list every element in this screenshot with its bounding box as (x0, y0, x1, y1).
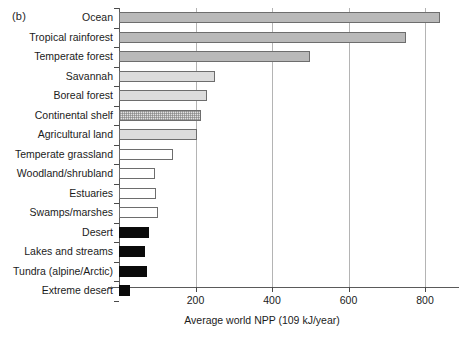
y-tick-mark (114, 262, 119, 263)
bar-temperate-forest (119, 51, 310, 62)
x-tick-mark-600 (349, 287, 350, 292)
bar-extreme-desert (119, 285, 130, 296)
category-label-desert: Desert (0, 227, 113, 238)
npp-bar-chart-figure: (b) OceanTropical rainforestTemperate fo… (0, 0, 474, 337)
bar-row (119, 203, 467, 223)
y-tick-mark (114, 67, 119, 68)
y-tick-mark (114, 47, 119, 48)
bar-row (119, 67, 467, 87)
bar-ocean (119, 12, 440, 23)
bar-row (119, 184, 467, 204)
category-label-temperate-forest: Temperate forest (0, 51, 113, 62)
x-tick-label-400: 400 (263, 294, 281, 306)
y-tick-mark (114, 281, 119, 282)
x-tick-mark-200 (196, 287, 197, 292)
y-tick-mark (114, 164, 119, 165)
bar-row (119, 47, 467, 67)
y-tick-mark (114, 184, 119, 185)
y-tick-mark (114, 203, 119, 204)
bar-row (119, 223, 467, 243)
bar-desert (119, 227, 149, 238)
x-tick-label-200: 200 (187, 294, 205, 306)
bar-row (119, 28, 467, 48)
bar-estuaries (119, 188, 156, 199)
y-tick-mark (114, 242, 119, 243)
category-label-woodland-shrubland: Woodland/shrubland (0, 168, 113, 179)
y-tick-mark (114, 125, 119, 126)
category-label-agricultural-land: Agricultural land (0, 129, 113, 140)
y-tick-mark (114, 86, 119, 87)
bar-temperate-grassland (119, 149, 173, 160)
category-label-swamps-marshes: Swamps/marshes (0, 207, 113, 218)
category-label-ocean: Ocean (0, 12, 113, 23)
bar-swamps-marshes (119, 207, 158, 218)
bar-row (119, 145, 467, 165)
bar-woodland-shrubland (119, 168, 155, 179)
bar-row (119, 8, 467, 28)
x-axis-title: Average world NPP (109 kJ/year) (0, 314, 474, 326)
y-tick-mark (114, 106, 119, 107)
x-tick-label-800: 800 (416, 294, 434, 306)
bar-tundra-alpine-arctic (119, 266, 147, 277)
bar-row (119, 125, 467, 145)
plot-area (119, 8, 467, 287)
bar-agricultural-land (119, 129, 197, 140)
bar-tropical-rainforest (119, 32, 406, 43)
bar-boreal-forest (119, 90, 207, 101)
category-label-estuaries: Estuaries (0, 188, 113, 199)
y-tick-mark (114, 223, 119, 224)
category-label-tundra-alpine-arctic: Tundra (alpine/Arctic) (0, 266, 113, 277)
bar-row (119, 242, 467, 262)
x-tick-label-600: 600 (340, 294, 358, 306)
category-label-lakes-and-streams: Lakes and streams (0, 246, 113, 257)
bar-savannah (119, 71, 215, 82)
category-axis-labels: OceanTropical rainforestTemperate forest… (0, 8, 113, 287)
bar-continental-shelf (119, 110, 201, 121)
x-axis-title-text: Average world NPP (109 kJ/year) (134, 314, 339, 326)
y-tick-mark (114, 8, 119, 9)
y-tick-mark (114, 301, 119, 302)
category-label-continental-shelf: Continental shelf (0, 110, 113, 121)
x-tick-mark-400 (272, 287, 273, 292)
category-label-tropical-rainforest: Tropical rainforest (0, 32, 113, 43)
category-label-boreal-forest: Boreal forest (0, 90, 113, 101)
y-tick-mark (114, 145, 119, 146)
bar-row (119, 164, 467, 184)
bar-row (119, 106, 467, 126)
bar-row (119, 86, 467, 106)
category-label-savannah: Savannah (0, 71, 113, 82)
bar-rows (119, 8, 467, 287)
category-label-extreme-desert: Extreme desert (0, 285, 113, 296)
y-tick-mark (114, 28, 119, 29)
category-label-temperate-grassland: Temperate grassland (0, 149, 113, 160)
bar-lakes-and-streams (119, 246, 145, 257)
bar-row (119, 262, 467, 282)
x-tick-mark-800 (425, 287, 426, 292)
bar-row (119, 281, 467, 301)
